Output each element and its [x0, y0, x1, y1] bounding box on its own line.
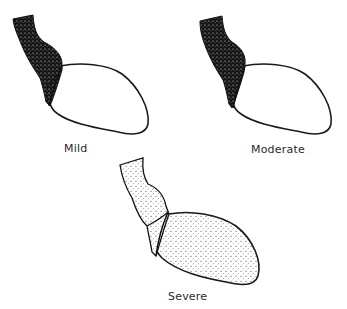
panel-severe [120, 158, 259, 284]
panel-moderate [200, 16, 343, 140]
panel-mild [13, 15, 160, 140]
label-moderate: Moderate [251, 143, 305, 156]
aorta-mild [13, 15, 62, 106]
label-mild: Mild [64, 142, 87, 155]
ventricle-severe [154, 213, 259, 285]
label-severe: Severe [168, 290, 207, 303]
